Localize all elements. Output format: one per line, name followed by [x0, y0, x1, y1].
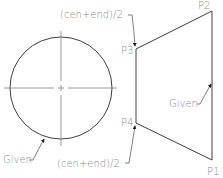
label-p2: P2: [198, 0, 210, 11]
edge-p3-p2: [136, 11, 212, 49]
label-p4: P4: [121, 117, 133, 128]
label-bottom-midpoint: (cen+end)/2: [57, 158, 120, 169]
leader-top-midpoint: [128, 15, 135, 46]
edge-p1-p4: [136, 123, 212, 160]
circle-centerlines: [4, 31, 117, 146]
label-p3: P3: [121, 45, 133, 56]
quadrilateral: [136, 11, 212, 160]
diagram-canvas: (cen+end)/2 (cen+end)/2 Given Given P1 P…: [0, 0, 223, 178]
label-circle-given: Given: [3, 154, 32, 165]
label-top-midpoint: (cen+end)/2: [60, 9, 123, 20]
leader-bottom-midpoint: [125, 126, 135, 163]
label-p1: P1: [207, 166, 219, 177]
leader-edge-given: [197, 84, 211, 104]
label-edge-given: Given: [169, 98, 198, 109]
